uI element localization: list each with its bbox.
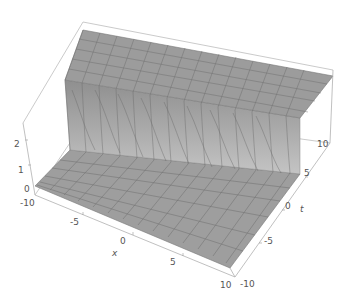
z-tick-1: 1	[18, 166, 24, 175]
z-tick-2: 2	[14, 140, 20, 149]
x-axis-title: x	[112, 249, 117, 258]
x-tick-10: 10	[220, 281, 231, 290]
t-axis-title: t	[300, 205, 304, 214]
x-tick-0: 0	[120, 237, 126, 246]
t-tick-neg10: -10	[240, 280, 255, 289]
surface-plot	[0, 0, 347, 301]
x-tick-neg10: -10	[20, 199, 35, 208]
t-tick-5: 5	[304, 169, 310, 178]
t-tick-neg5: -5	[264, 237, 273, 246]
t-tick-10: 10	[317, 140, 328, 149]
x-tick-neg5: -5	[70, 218, 79, 227]
x-tick-5: 5	[170, 258, 176, 267]
z-tick-0: 0	[24, 185, 30, 194]
t-tick-0: 0	[285, 202, 291, 211]
